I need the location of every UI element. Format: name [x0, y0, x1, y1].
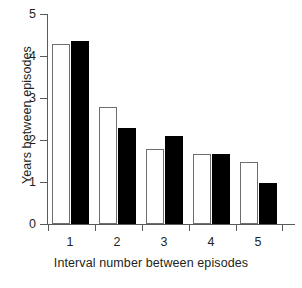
y-axis-line	[47, 14, 48, 225]
y-tick: 0	[40, 224, 47, 225]
x-tick-mark	[236, 225, 237, 231]
bar	[52, 44, 70, 224]
x-tick-label: 3	[154, 234, 174, 250]
bar	[99, 107, 117, 224]
y-tick-mark	[40, 224, 47, 225]
y-tick: 4	[40, 56, 47, 57]
y-tick-mark	[40, 14, 47, 15]
x-tick-mark	[282, 225, 283, 231]
y-tick-mark	[40, 182, 47, 183]
bar	[212, 154, 230, 224]
x-axis-title: Interval number between episodes	[0, 255, 302, 271]
y-tick: 2	[40, 140, 47, 141]
y-tick-mark	[40, 98, 47, 99]
x-tick-mark	[95, 225, 96, 231]
bar	[193, 154, 211, 224]
x-axis-line	[40, 224, 295, 225]
y-tick-mark	[40, 56, 47, 57]
x-tick-mark	[48, 225, 49, 231]
y-tick-label: 3	[29, 90, 36, 106]
bar	[240, 162, 258, 224]
y-tick-label: 0	[29, 216, 36, 232]
y-axis-title: Years between episodes	[18, 3, 36, 227]
bar	[71, 41, 89, 224]
bar	[259, 183, 277, 224]
y-tick-label: 2	[29, 132, 36, 148]
plot-area: 012345 12345	[47, 14, 295, 224]
x-tick-label: 1	[60, 234, 80, 250]
y-tick: 3	[40, 98, 47, 99]
y-tick-label: 1	[29, 174, 36, 190]
x-tick-mark	[142, 225, 143, 231]
y-tick-label: 4	[29, 48, 36, 64]
x-tick-label: 2	[107, 234, 127, 250]
y-tick: 1	[40, 182, 47, 183]
bar	[146, 149, 164, 224]
x-tick-label: 4	[201, 234, 221, 250]
x-tick-label: 5	[248, 234, 268, 250]
y-tick-label: 5	[29, 6, 36, 22]
figure: Years between episodes 012345 12345 Inte…	[0, 0, 302, 288]
y-tick: 5	[40, 14, 47, 15]
y-tick-mark	[40, 140, 47, 141]
bar	[165, 136, 183, 224]
x-tick-mark	[189, 225, 190, 231]
bar	[118, 128, 136, 224]
